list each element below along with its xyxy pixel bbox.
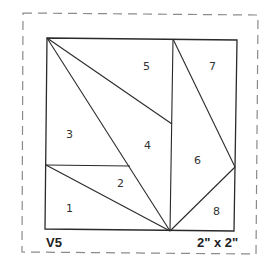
seam-diagonal-lower-right: [170, 167, 235, 231]
piece-label-6: 6: [194, 154, 201, 167]
seam-allowance-border: [22, 13, 258, 254]
seam-diagonal-right: [173, 39, 235, 167]
foundation-pattern: 1 2 3 4 5 6 7 8 V5 2" x 2": [0, 0, 270, 271]
seam-horizontal-left: [46, 165, 130, 166]
seam-diagonal-upper: [47, 38, 172, 124]
seam-lines: [46, 38, 235, 231]
seam-diagonal-lower-left: [46, 165, 170, 231]
piece-label-8: 8: [213, 205, 220, 218]
piece-label-2: 2: [117, 177, 124, 190]
pattern-title: V5: [46, 235, 62, 250]
piece-label-1: 1: [66, 202, 73, 215]
seam-vertical: [170, 39, 173, 231]
piece-label-7: 7: [209, 60, 216, 73]
piece-label-5: 5: [143, 60, 150, 73]
piece-label-4: 4: [144, 139, 151, 152]
piece-label-3: 3: [66, 128, 73, 141]
block-size-label: 2" x 2": [197, 235, 238, 250]
